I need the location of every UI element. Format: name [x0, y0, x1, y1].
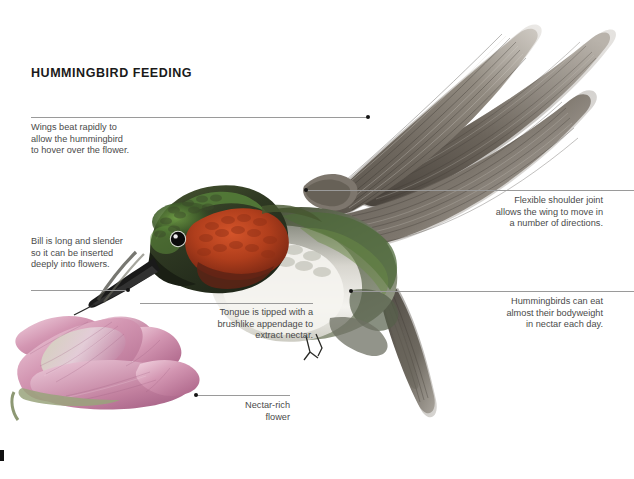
- leader-dot-flower: [194, 393, 198, 397]
- callout-bill: Bill is long and slender so it can be in…: [31, 236, 201, 271]
- callout-nectar: Hummingbirds can eat almost their bodywe…: [455, 296, 603, 331]
- illustration-page: HUMMINGBIRD FEEDING Wings beat rapidly t…: [0, 0, 634, 479]
- callout-flower: Nectar-rich flower: [190, 400, 290, 423]
- leader-line-tongue: [140, 303, 313, 304]
- page-edge-mark: [0, 450, 4, 461]
- leader-line-bill: [31, 290, 129, 291]
- leader-line-shoulder: [306, 190, 634, 191]
- leader-dot-nectar: [349, 289, 353, 293]
- callout-shoulder: Flexible shoulder joint allows the wing …: [455, 195, 603, 230]
- page-title: HUMMINGBIRD FEEDING: [31, 66, 192, 80]
- callout-wings: Wings beat rapidly to allow the hummingb…: [31, 122, 201, 157]
- leader-line-flower: [196, 395, 290, 396]
- leader-line-wings: [31, 117, 369, 118]
- leader-line-nectar: [351, 291, 634, 292]
- leader-dot-bill: [126, 288, 130, 292]
- leader-dot-wings: [366, 115, 370, 119]
- leader-dot-shoulder: [304, 188, 308, 192]
- callout-tongue: Tongue is tipped with a brushlike append…: [163, 307, 313, 342]
